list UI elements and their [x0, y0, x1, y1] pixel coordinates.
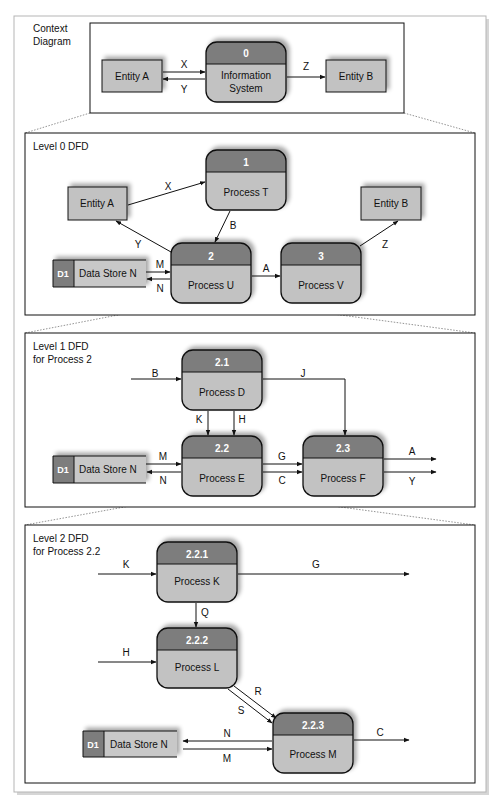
level0-process-1-name: Process T [224, 187, 269, 198]
process-0-id: 0 [243, 48, 249, 59]
level1-datastore-id: D1 [57, 465, 69, 475]
level1-flow-b-label: B [152, 368, 159, 379]
level1-flow-h-label: H [238, 414, 245, 425]
level1-process-2-2-name: Process E [199, 473, 245, 484]
level0-process-2-name: Process U [188, 280, 234, 291]
level2-datastore-id: D1 [87, 740, 99, 750]
level2-flow-q-label: Q [201, 607, 209, 618]
level2-flow-m-label: M [223, 753, 231, 764]
context-title: Context [33, 23, 68, 34]
level1-process-2-1-id: 2.1 [215, 357, 229, 368]
level2-flow-c-label: C [376, 727, 383, 738]
flow-y-label: Y [181, 84, 188, 95]
entity-a-label: Entity A [115, 71, 149, 82]
level1-flow-m-label: M [159, 451, 167, 462]
level2-flow-k-label: K [123, 559, 130, 570]
level2-process-2-2-2-id: 2.2.2 [186, 635, 209, 646]
level0-process-2-id: 2 [208, 251, 214, 262]
level0-flow-x-label: X [165, 181, 172, 192]
level2-flow-r-label: R [254, 686, 261, 697]
level1-title: Level 1 DFD [33, 341, 89, 352]
level1-title-2: for Process 2 [33, 354, 92, 365]
level0-entity-a-label: Entity A [80, 198, 114, 209]
level1-flow-c-label: C [278, 475, 285, 486]
level2-flow-g-label: G [312, 559, 320, 570]
level1-flow-a-label: A [409, 446, 416, 457]
flow-x-label: X [181, 59, 188, 70]
level0-flow-b-label: B [230, 220, 237, 231]
dfd-canvas: Context Diagram Entity A 0 Information S… [0, 0, 500, 804]
level1-process-2-1-name: Process D [199, 387, 245, 398]
level0-title: Level 0 DFD [33, 141, 89, 152]
level2-process-2-2-1-id: 2.2.1 [186, 549, 209, 560]
level1-process-2-3-id: 2.3 [336, 443, 350, 454]
entity-b-label: Entity B [339, 71, 374, 82]
level0-datastore-id: D1 [57, 269, 69, 279]
level1-flow-k-label: K [196, 414, 203, 425]
level1-process-2-3-name: Process F [320, 473, 365, 484]
level2-flow-s-label: S [238, 705, 245, 716]
level0-flow-m-label: M [156, 259, 164, 270]
level0-datastore-name: Data Store N [79, 268, 137, 279]
level0-flow-a-label: A [263, 263, 270, 274]
level1-diagram: Level 1 DFD for Process 2 D1 Data Store … [25, 333, 475, 507]
level1-flow-n-label: N [159, 475, 166, 486]
level1-datastore-name: Data Store N [79, 464, 137, 475]
level1-flow-j-label: J [301, 368, 306, 379]
level2-flow-h-label: H [122, 647, 129, 658]
level0-process-3-name: Process V [298, 280, 344, 291]
level0-process-1-id: 1 [243, 157, 249, 168]
level0-flow-y-label: Y [135, 239, 142, 250]
level1-process-2-2-id: 2.2 [215, 443, 229, 454]
level2-diagram: Level 2 DFD for Process 2.2 D1 Data Stor… [25, 525, 475, 783]
level0-flow-z-label: Z [382, 239, 388, 250]
level2-title-2: for Process 2.2 [33, 546, 101, 557]
level2-process-2-2-1-name: Process K [174, 576, 220, 587]
level0-diagram: Level 0 DFD Entity A Entity B D1 Data St… [25, 133, 475, 315]
level2-process-2-2-3-id: 2.2.3 [302, 720, 325, 731]
level0-flow-n-label: N [156, 283, 163, 294]
level0-entity-b-label: Entity B [374, 198, 409, 209]
context-title-2: Diagram [33, 36, 71, 47]
level1-flow-g-label: G [278, 451, 286, 462]
level2-process-2-2-3-name: Process M [289, 749, 336, 760]
level2-flow-n-label: N [223, 728, 230, 739]
level2-process-2-2-2-name: Process L [175, 662, 220, 673]
process-0-name: Information [221, 70, 271, 81]
level0-process-3-id: 3 [318, 251, 324, 262]
level2-datastore-name: Data Store N [110, 739, 168, 750]
flow-z-label: Z [303, 61, 309, 72]
level2-title: Level 2 DFD [33, 533, 89, 544]
level1-flow-y-label: Y [409, 476, 416, 487]
dfd-figure: Context Diagram Entity A 0 Information S… [0, 0, 500, 804]
process-0-name-2: System [229, 83, 262, 94]
